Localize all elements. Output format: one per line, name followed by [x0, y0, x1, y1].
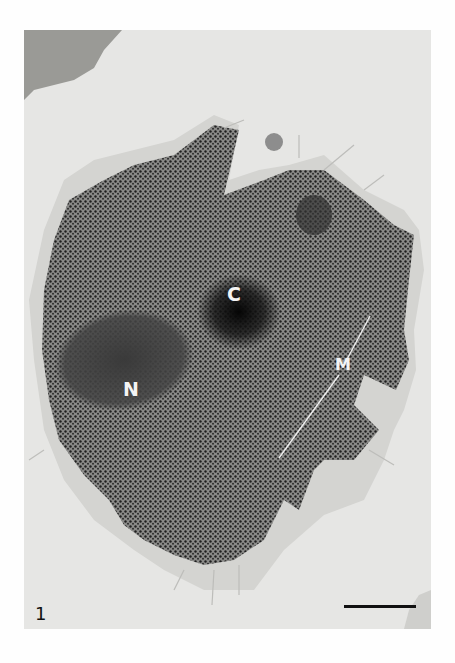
neighbor-cell — [24, 30, 122, 100]
cell-illustration — [24, 30, 431, 629]
label-centrosome: C — [227, 285, 241, 304]
scale-bar — [344, 605, 416, 608]
neighbor-cell-edge — [404, 590, 431, 629]
micrograph-panel: C N M 1 — [24, 30, 431, 629]
label-nucleus: N — [123, 380, 139, 399]
figure-number: 1 — [35, 605, 46, 623]
label-mitochondria: M — [335, 357, 351, 373]
